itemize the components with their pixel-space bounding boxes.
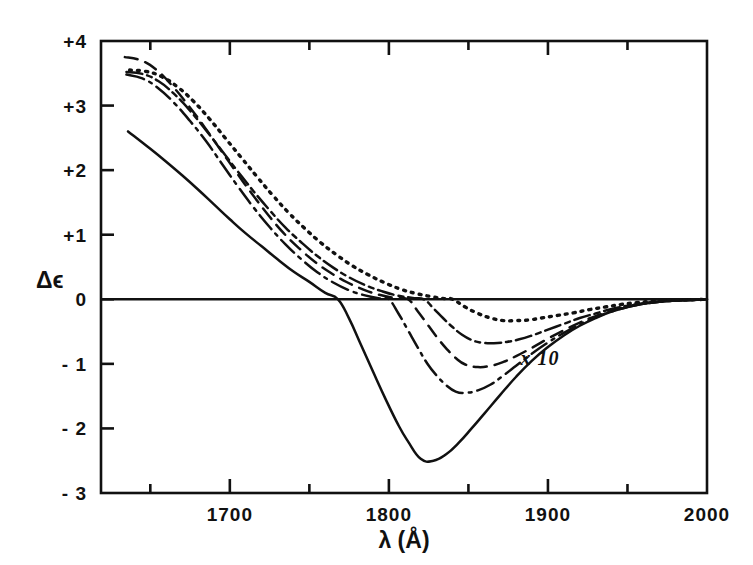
y-tick-label: +4 [63, 31, 87, 52]
chart-annotations: x 10 [519, 347, 559, 369]
y-tick-label: - 2 [62, 418, 87, 439]
y-tick-label: +2 [63, 160, 87, 181]
figure-root: +4+3+2+10- 1- 2- 3 1700180019002000 Δϵ λ… [0, 0, 753, 565]
y-tick-label: - 3 [62, 483, 87, 504]
y-axis-title: Δϵ [36, 267, 64, 293]
y-tick-label: - 1 [62, 354, 87, 375]
scale-multiplier: x 10 [519, 347, 559, 369]
x-tick-label-2000: 2000 [684, 504, 730, 525]
cd-spectrum-chart: +4+3+2+10- 1- 2- 3 1700180019002000 Δϵ λ… [0, 0, 753, 565]
y-tick-label: +1 [63, 225, 87, 246]
y-tick-label: 0 [75, 289, 87, 310]
x-tick-label-1800: 1800 [366, 504, 412, 525]
x-tick-label-1700: 1700 [207, 504, 253, 525]
x-axis-title: λ (Å) [378, 526, 429, 553]
x-tick-label-1900: 1900 [525, 504, 571, 525]
chart-background [0, 0, 753, 565]
y-tick-label: +3 [63, 96, 87, 117]
